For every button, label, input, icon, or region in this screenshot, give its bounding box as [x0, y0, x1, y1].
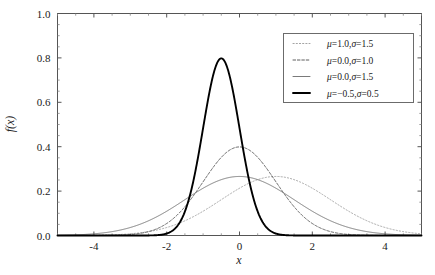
gaussian-pdf-chart: -4-2024 0.00.20.40.60.81.0 x f(x) μ=1.0,…	[0, 0, 435, 275]
y-tick-label: 0.0	[37, 230, 51, 242]
legend-label: μ=0.0,σ=1.0	[326, 56, 374, 66]
y-tick-label: 0.8	[37, 52, 51, 64]
y-tick-label: 0.6	[37, 96, 51, 108]
legend: μ=1.0,σ=1.5μ=0.0,σ=1.0μ=0.0,σ=1.5μ=−0.5,…	[284, 34, 414, 103]
legend-label: μ=−0.5,σ=0.5	[326, 89, 379, 99]
figure-container: -4-2024 0.00.20.40.60.81.0 x f(x) μ=1.0,…	[0, 0, 435, 275]
x-tick-label: -2	[162, 240, 171, 252]
y-tick-label: 0.4	[37, 141, 51, 153]
y-tick-label: 0.2	[37, 185, 51, 197]
x-tick-label: 0	[237, 240, 243, 252]
x-axis-title: x	[235, 253, 242, 267]
legend-label: μ=1.0,σ=1.5	[326, 39, 374, 49]
x-tick-label: 4	[382, 240, 388, 252]
legend-label: μ=0.0,σ=1.5	[326, 72, 374, 82]
x-tick-label: 2	[310, 240, 316, 252]
y-tick-label: 1.0	[37, 8, 51, 20]
y-axis-title: f(x)	[3, 116, 17, 133]
x-tick-label: -4	[89, 240, 99, 252]
